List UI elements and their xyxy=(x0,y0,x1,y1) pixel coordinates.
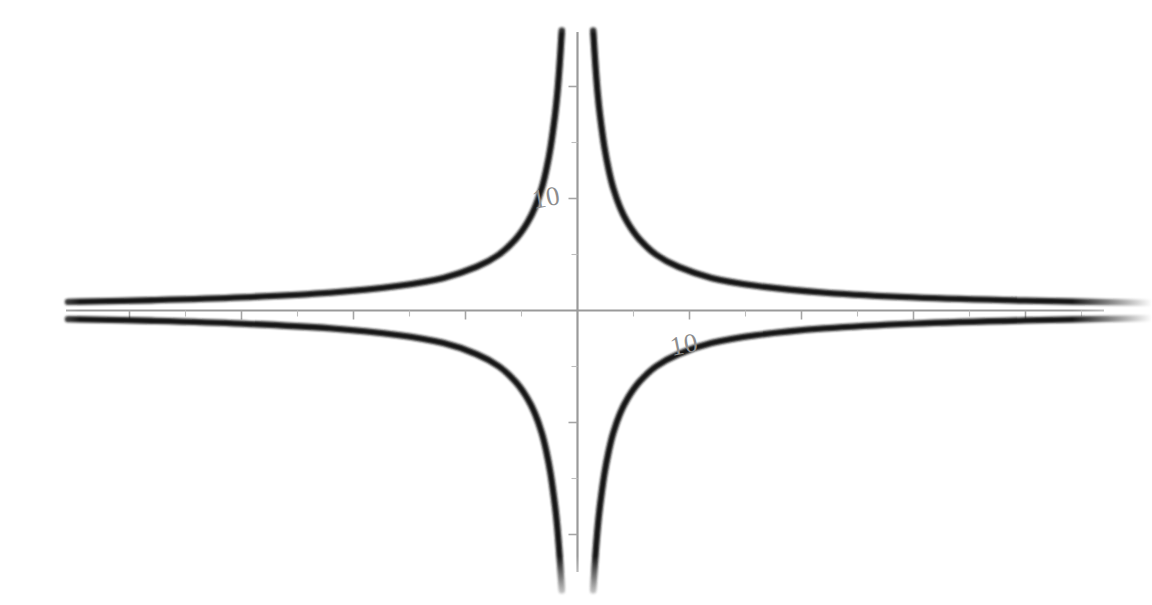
y-axis-tick-label-10: 10 xyxy=(529,180,562,215)
curve-branch-quadrant-3 xyxy=(68,319,562,590)
x-axis-tick-label-10: 10 xyxy=(667,327,700,362)
hyperbola-plot-canvas: 10 10 xyxy=(0,0,1152,605)
curve-branch-quadrant-1 xyxy=(593,31,1152,303)
axes-group xyxy=(66,32,1104,572)
plot-svg: 10 10 xyxy=(0,0,1152,605)
curve-branch-quadrant-2 xyxy=(68,31,562,302)
x-axis-ticks xyxy=(130,311,1082,320)
